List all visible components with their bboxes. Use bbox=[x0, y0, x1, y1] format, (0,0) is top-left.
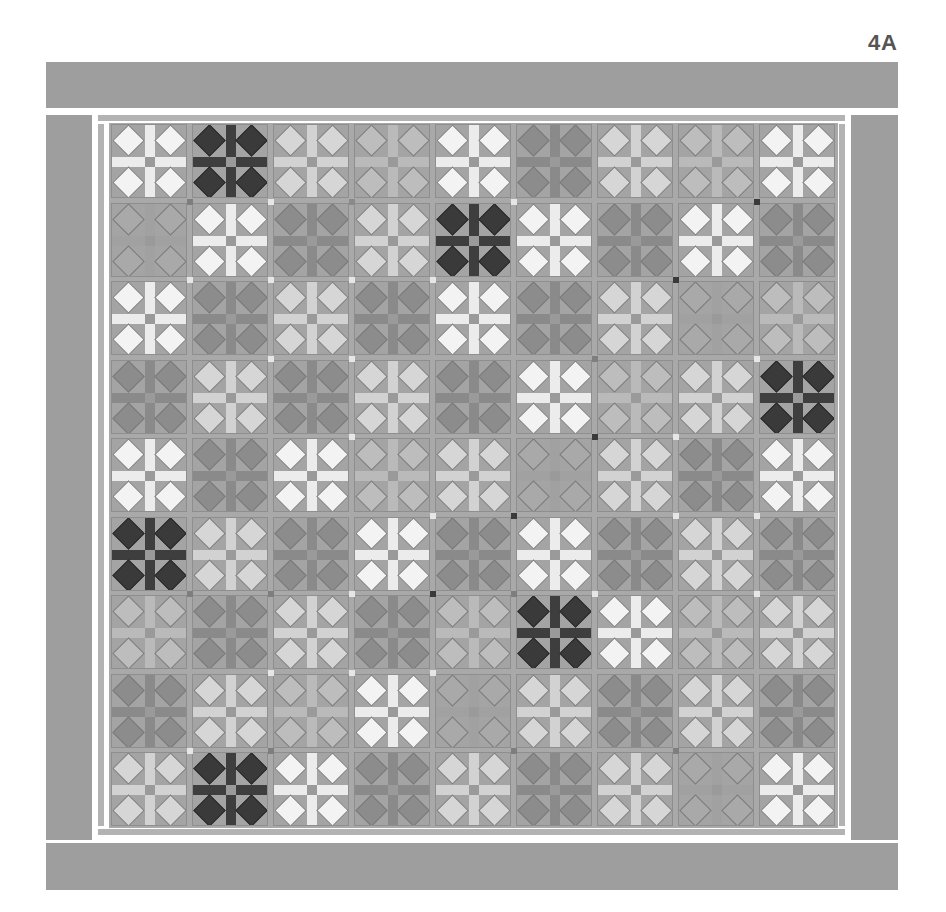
diamond-patch bbox=[112, 166, 145, 198]
diamond-patch bbox=[436, 323, 469, 355]
quilt-block bbox=[516, 281, 592, 355]
diamond-patch bbox=[760, 595, 793, 628]
cross-center bbox=[469, 471, 479, 481]
quilt-block bbox=[192, 360, 268, 434]
diamond-patch bbox=[436, 595, 469, 628]
diamond-patch bbox=[802, 517, 835, 550]
cross-center bbox=[307, 314, 317, 324]
diamond-patch bbox=[112, 245, 145, 277]
diamond-patch bbox=[640, 595, 673, 628]
quilt-block bbox=[759, 595, 835, 669]
diamond-patch bbox=[760, 323, 793, 355]
diamond-patch bbox=[235, 716, 268, 748]
diamond-patch bbox=[559, 716, 592, 748]
diamond-patch bbox=[193, 637, 226, 669]
diamond-patch bbox=[235, 480, 268, 512]
sashing-cornerstone bbox=[187, 199, 193, 205]
diamond-patch bbox=[193, 752, 226, 785]
cross-center bbox=[550, 707, 560, 717]
diamond-patch bbox=[112, 595, 145, 628]
diamond-patch bbox=[517, 752, 550, 785]
diamond-patch bbox=[355, 245, 388, 277]
diamond-patch bbox=[235, 637, 268, 669]
quilt-block bbox=[597, 438, 673, 512]
diamond-patch bbox=[802, 716, 835, 748]
diamond-patch bbox=[397, 595, 430, 628]
cross-center bbox=[307, 785, 317, 795]
diamond-patch bbox=[397, 360, 430, 393]
quilt-block bbox=[678, 281, 754, 355]
diamond-patch bbox=[517, 559, 550, 591]
quilt-block bbox=[516, 438, 592, 512]
sashing-cornerstone bbox=[430, 591, 436, 597]
sashing-cornerstone bbox=[511, 513, 517, 519]
diamond-patch bbox=[598, 480, 631, 512]
cross-center bbox=[631, 707, 641, 717]
diamond-patch bbox=[802, 637, 835, 669]
diamond-patch bbox=[598, 517, 631, 550]
diamond-patch bbox=[193, 480, 226, 512]
quilt-block bbox=[516, 517, 592, 591]
diamond-patch bbox=[436, 674, 469, 707]
diamond-patch bbox=[802, 203, 835, 236]
diamond-patch bbox=[355, 637, 388, 669]
diamond-patch bbox=[721, 637, 754, 669]
diamond-patch bbox=[436, 166, 469, 198]
diamond-patch bbox=[154, 517, 187, 550]
cross-center bbox=[145, 314, 155, 324]
diamond-patch bbox=[517, 124, 550, 157]
diamond-patch bbox=[316, 480, 349, 512]
diamond-patch bbox=[274, 323, 307, 355]
diamond-patch bbox=[478, 402, 511, 434]
diamond-patch bbox=[397, 438, 430, 471]
diamond-patch bbox=[721, 245, 754, 277]
cross-center bbox=[388, 471, 398, 481]
diamond-patch bbox=[478, 595, 511, 628]
diamond-patch bbox=[802, 402, 835, 434]
diamond-patch bbox=[193, 794, 226, 826]
diamond-patch bbox=[721, 402, 754, 434]
quilt-block bbox=[597, 360, 673, 434]
diamond-patch bbox=[436, 281, 469, 314]
diamond-patch bbox=[193, 438, 226, 471]
diamond-patch bbox=[193, 402, 226, 434]
quilt-block bbox=[597, 595, 673, 669]
diamond-patch bbox=[355, 281, 388, 314]
quilt-block bbox=[597, 517, 673, 591]
diamond-patch bbox=[640, 360, 673, 393]
diamond-patch bbox=[517, 203, 550, 236]
diamond-patch bbox=[154, 716, 187, 748]
quilt-block bbox=[273, 281, 349, 355]
quilt-block bbox=[354, 203, 430, 277]
cross-center bbox=[793, 550, 803, 560]
diamond-patch bbox=[436, 559, 469, 591]
cross-center bbox=[631, 550, 641, 560]
cross-center bbox=[550, 471, 560, 481]
diamond-patch bbox=[316, 203, 349, 236]
diamond-patch bbox=[802, 360, 835, 393]
diamond-patch bbox=[802, 438, 835, 471]
sashing-cornerstone bbox=[349, 277, 355, 283]
diamond-patch bbox=[274, 166, 307, 198]
diamond-patch bbox=[397, 323, 430, 355]
outer-border-bottom bbox=[46, 843, 898, 890]
diamond-patch bbox=[112, 281, 145, 314]
diamond-patch bbox=[517, 360, 550, 393]
diamond-patch bbox=[802, 281, 835, 314]
sashing-cornerstone bbox=[349, 434, 355, 440]
diamond-patch bbox=[274, 245, 307, 277]
cross-center bbox=[226, 628, 236, 638]
diamond-patch bbox=[154, 559, 187, 591]
quilt-block bbox=[192, 203, 268, 277]
diamond-patch bbox=[640, 517, 673, 550]
diamond-patch bbox=[316, 124, 349, 157]
diamond-patch bbox=[679, 323, 712, 355]
diamond-patch bbox=[478, 752, 511, 785]
diamond-patch bbox=[112, 438, 145, 471]
quilt-block bbox=[597, 281, 673, 355]
quilt-block bbox=[597, 124, 673, 198]
diamond-patch bbox=[760, 480, 793, 512]
cross-center bbox=[631, 393, 641, 403]
diamond-patch bbox=[679, 402, 712, 434]
quilt-block bbox=[678, 124, 754, 198]
